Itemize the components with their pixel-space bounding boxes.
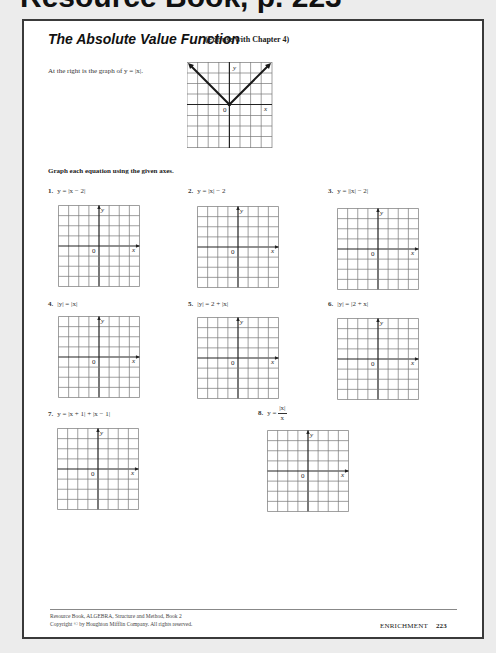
y-axis-label: y (310, 431, 313, 439)
y-axis-label: y (101, 317, 104, 325)
x-axis-label: x (131, 469, 134, 477)
y-axis-label: y (100, 429, 103, 437)
origin-label: 0 (301, 472, 305, 480)
graph-problem-6[interactable]: yx0 (337, 318, 419, 400)
x-axis-label: x (132, 246, 135, 254)
problem-8-label: 8.y = |x|x (258, 404, 287, 423)
y-axis-label: y (101, 206, 104, 214)
problem-2-label: 2.y = |x| − 2 (188, 187, 225, 195)
x-axis-label: x (264, 105, 267, 113)
graph-problem-2[interactable]: yx0 (197, 206, 279, 288)
x-axis-label: x (411, 249, 414, 257)
instructions-text: Graph each equation using the given axes… (48, 167, 174, 175)
footer-copyright: Copyright © by Houghton Mifflin Company.… (50, 620, 192, 628)
worksheet-subtitle: (For use with Chapter 4) (205, 35, 289, 44)
origin-label: 0 (92, 358, 96, 366)
problem-1-label: 1.y = |x − 2| (48, 187, 85, 195)
page-number: 223 (436, 622, 447, 630)
origin-label: 0 (371, 360, 375, 368)
footer-divider (50, 609, 457, 610)
origin-label: 0 (231, 248, 235, 256)
graph-problem-3[interactable]: yx0 (337, 208, 419, 290)
y-axis-label: y (380, 319, 383, 327)
example-graph: y x 0 (187, 62, 273, 150)
x-axis-label: x (132, 357, 135, 365)
origin-label: 0 (223, 106, 227, 114)
graph-problem-5[interactable]: yx0 (197, 317, 279, 399)
resource-book-header: Resource Book, p. 223 (20, 0, 342, 14)
origin-label: 0 (92, 247, 96, 255)
y-axis-label: y (240, 207, 243, 215)
problem-3-label: 3.y = ||x| − 2| (328, 187, 368, 195)
origin-label: 0 (231, 359, 235, 367)
problem-7-label: 7.y = |x + 1| + |x − 1| (48, 410, 110, 418)
graph-problem-7[interactable]: yx0 (57, 428, 139, 510)
intro-text: At the right is the graph of y = |x|. (48, 67, 143, 75)
x-axis-label: x (411, 359, 414, 367)
footer-page-info: ENRICHMENT223 (380, 622, 447, 630)
footer-book-title: Resource Book, ALGEBRA, Structure and Me… (50, 612, 192, 620)
footer-section: ENRICHMENT (380, 622, 428, 630)
problem-6-label: 6.|y| = |2 + x| (328, 300, 368, 308)
x-axis-label: x (341, 471, 344, 479)
graph-problem-1[interactable]: yx0 (58, 205, 140, 287)
footer-credits: Resource Book, ALGEBRA, Structure and Me… (50, 612, 192, 628)
y-axis-label: y (233, 64, 236, 72)
graph-problem-8[interactable]: yx0 (267, 430, 349, 512)
graph-problem-4[interactable]: yx0 (58, 316, 140, 398)
origin-label: 0 (91, 470, 95, 478)
problem-4-label: 4.|y| = |x| (48, 300, 77, 308)
problem-5-label: 5.|y| = 2 + |x| (188, 300, 228, 308)
fraction: |x|x (278, 404, 286, 423)
y-axis-label: y (380, 209, 383, 217)
y-axis-label: y (240, 318, 243, 326)
x-axis-label: x (271, 247, 274, 255)
x-axis-label: x (271, 358, 274, 366)
origin-label: 0 (371, 250, 375, 258)
